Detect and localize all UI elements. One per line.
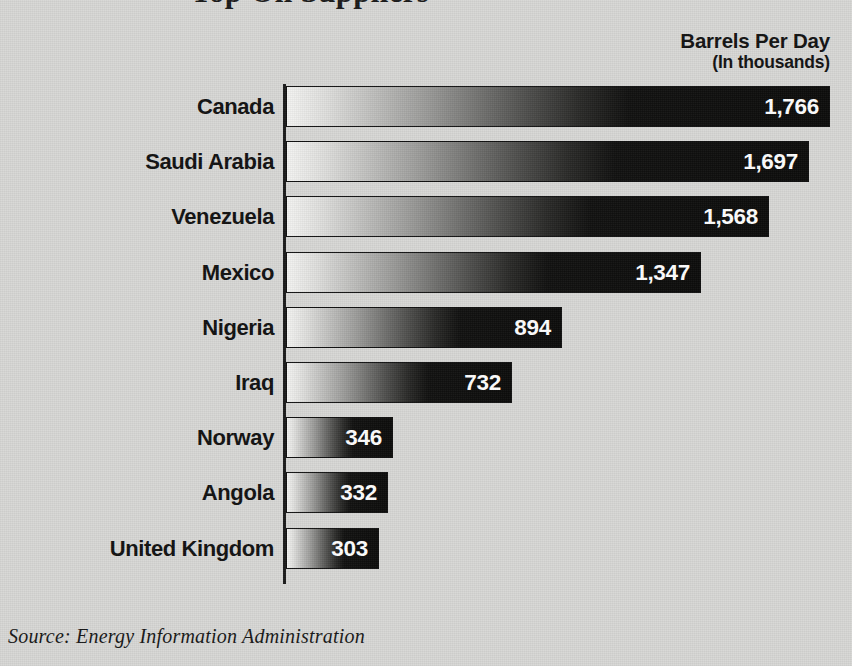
bar-row: Nigeria894 bbox=[0, 307, 852, 348]
bar: 346 bbox=[286, 417, 393, 458]
plot-area: Canada1,766Saudi Arabia1,697Venezuela1,5… bbox=[0, 80, 852, 595]
bar-row: Venezuela1,568 bbox=[0, 196, 852, 237]
page-title: Top Oil Suppliers bbox=[0, 0, 620, 10]
bar: 1,568 bbox=[286, 196, 769, 237]
bar-row: Canada1,766 bbox=[0, 86, 852, 127]
bar-row: United Kingdom303 bbox=[0, 528, 852, 569]
bar: 1,697 bbox=[286, 141, 809, 182]
legend-title: Barrels Per Day bbox=[680, 30, 830, 53]
bar-value-label: 894 bbox=[514, 307, 551, 348]
bar-row: Iraq732 bbox=[0, 362, 852, 403]
bar-row: Angola332 bbox=[0, 472, 852, 513]
oil-suppliers-bar-chart: Top Oil Suppliers Barrels Per Day (In th… bbox=[0, 0, 852, 666]
bar: 1,347 bbox=[286, 252, 701, 293]
bar-category-label: Venezuela bbox=[171, 196, 274, 237]
bar-category-label: Canada bbox=[197, 86, 274, 127]
bar-value-label: 1,347 bbox=[635, 252, 690, 293]
bar-fill bbox=[286, 141, 809, 182]
bar-row: Saudi Arabia1,697 bbox=[0, 141, 852, 182]
bar: 1,766 bbox=[286, 86, 830, 127]
bar-category-label: Saudi Arabia bbox=[145, 141, 274, 182]
bar-row: Mexico1,347 bbox=[0, 252, 852, 293]
bar-category-label: Angola bbox=[202, 472, 274, 513]
bar-value-label: 1,697 bbox=[743, 141, 798, 182]
bar-row: Norway346 bbox=[0, 417, 852, 458]
bar-value-label: 303 bbox=[331, 528, 368, 569]
bar-value-label: 332 bbox=[340, 472, 377, 513]
source-note: Source: Energy Information Administratio… bbox=[8, 625, 365, 648]
bar-category-label: Nigeria bbox=[202, 307, 274, 348]
legend: Barrels Per Day (In thousands) bbox=[680, 30, 830, 73]
bar-value-label: 1,568 bbox=[703, 196, 758, 237]
bar-fill bbox=[286, 196, 769, 237]
legend-subtitle: (In thousands) bbox=[680, 53, 830, 73]
bar-category-label: United Kingdom bbox=[110, 528, 274, 569]
bar-value-label: 1,766 bbox=[764, 86, 819, 127]
bar-fill bbox=[286, 86, 830, 127]
bar-value-label: 732 bbox=[464, 362, 501, 403]
bar-category-label: Norway bbox=[197, 417, 274, 458]
bar: 303 bbox=[286, 528, 379, 569]
bar-value-label: 346 bbox=[345, 417, 382, 458]
y-axis-line bbox=[283, 84, 286, 584]
bar: 732 bbox=[286, 362, 512, 403]
bar-category-label: Mexico bbox=[202, 252, 274, 293]
bar-category-label: Iraq bbox=[235, 362, 274, 403]
bar: 332 bbox=[286, 472, 388, 513]
bar: 894 bbox=[286, 307, 562, 348]
